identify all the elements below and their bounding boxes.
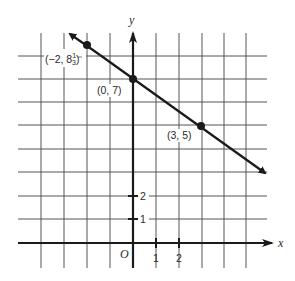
point-label-neg2: (−2, 813) <box>45 52 79 66</box>
x-tick-label-2: 2 <box>176 252 182 264</box>
coordinate-plane: x y O 1 2 1 2 (−2, 813) (0, 7) (3, 5) <box>0 0 295 281</box>
graphed-line <box>100 55 265 173</box>
point-label-0-7: (0, 7) <box>97 84 122 96</box>
axis-ticks <box>128 196 179 248</box>
y-tick-label-2: 2 <box>140 190 146 202</box>
origin-label: O <box>120 247 129 261</box>
x-axis-label: x <box>277 236 284 250</box>
point-neg2-8-third <box>83 41 91 49</box>
point-0-7 <box>129 75 137 83</box>
point-label-3-5: (3, 5) <box>167 129 192 141</box>
point-3-5 <box>197 122 205 130</box>
vertical-grid-lines <box>41 33 246 268</box>
y-tick-label-1: 1 <box>140 213 146 225</box>
y-axis-label: y <box>128 13 135 27</box>
x-tick-label-1: 1 <box>153 252 159 264</box>
